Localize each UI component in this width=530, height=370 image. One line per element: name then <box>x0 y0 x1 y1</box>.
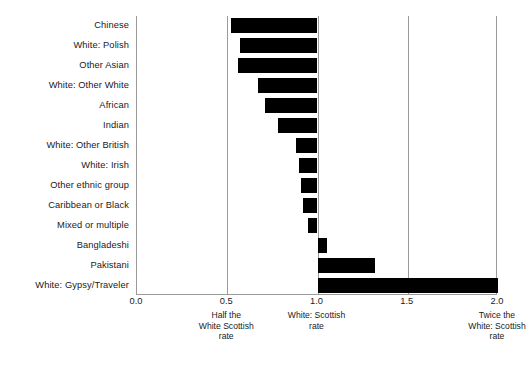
category-label: White: Other White <box>0 80 129 91</box>
category-label: Caribbean or Black <box>0 200 129 211</box>
bar <box>231 18 318 33</box>
category-axis-labels: ChineseWhite: PolishOther AsianWhite: Ot… <box>0 16 129 295</box>
x-tick-value: 2.0 <box>437 295 530 308</box>
value-axis-labels: 0.00.5Half theWhite Scottishrate1.0White… <box>136 295 497 370</box>
category-label: Other Asian <box>0 60 129 71</box>
x-tick-annotation: White: Scottishrate <box>257 310 377 331</box>
category-label: White: Gypsy/Traveler <box>0 280 129 291</box>
bar <box>303 198 317 213</box>
category-label: White: Other British <box>0 140 129 151</box>
x-tick-annotation: Twice theWhite: Scottishrate <box>437 310 530 342</box>
category-label: Other ethnic group <box>0 180 129 191</box>
category-label: African <box>0 100 129 111</box>
bars <box>137 16 496 294</box>
category-label: White: Irish <box>0 160 129 171</box>
bar <box>258 78 318 93</box>
plot-area <box>136 16 497 295</box>
bar <box>238 58 317 73</box>
bar <box>265 98 317 113</box>
bar <box>278 118 318 133</box>
x-tick: 2.0Twice theWhite: Scottishrate <box>437 295 530 342</box>
bar <box>299 158 317 173</box>
category-label: Mixed or multiple <box>0 220 129 231</box>
bar <box>308 218 317 233</box>
category-label: Bangladeshi <box>0 240 129 251</box>
bar <box>296 138 318 153</box>
bar <box>318 278 499 293</box>
bar <box>301 178 317 193</box>
category-label: Pakistani <box>0 260 129 271</box>
category-label: Indian <box>0 120 129 131</box>
category-label: Chinese <box>0 20 129 31</box>
bar <box>318 258 376 273</box>
bar <box>318 238 327 253</box>
category-label: White: Polish <box>0 40 129 51</box>
bar <box>240 38 318 53</box>
